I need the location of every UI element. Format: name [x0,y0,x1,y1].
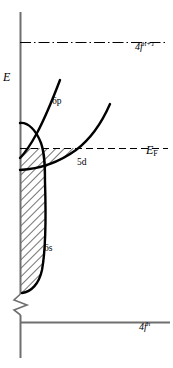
level-label-4f-n-plus-1: 4fn+1 [135,42,155,52]
level-label-4f-n: 4fn [139,322,150,332]
level-label-4f-n-plus-1-base: 4f [135,41,143,52]
energy-band-diagram-figure: E 4fn+1 EF 4fn 6p 5d 6s [0,0,173,368]
level-label-4f-n-plus-1-exponent: n+1 [143,40,155,48]
energy-axis-label: E [3,71,10,83]
axis-break-zigzag-icon [14,294,27,315]
band-label-6s: 6s [44,244,52,254]
fermi-level-label: EF [146,144,158,156]
level-label-4f-n-base: 4f [139,321,147,332]
band-curve-6p [20,80,60,158]
band-diagram-svg [0,0,173,368]
level-label-4f-n-exponent: n [147,320,151,328]
fermi-level-label-subscript: F [153,149,157,158]
band-label-6p: 6p [52,97,62,107]
band-label-5d: 5d [77,158,87,168]
